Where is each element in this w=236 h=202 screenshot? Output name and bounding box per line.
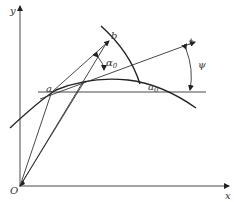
x-axis-label: x [225,190,231,201]
point-t-label: t [189,36,194,47]
alpha0-angle-arc [98,57,104,70]
tangent-line-a-t [40,42,195,99]
diagram-canvas: y x O a b t a0 α0 ψ [0,0,236,202]
psi-angle-arc [186,49,191,90]
alpha0-label: α0 [106,57,118,70]
y-axis-label: y [9,5,16,16]
point-a-label: a [46,83,52,94]
origin-label: O [10,185,18,196]
line-O-curve [20,82,84,186]
radius-arc [101,26,140,84]
point-b-label: b [111,30,117,41]
psi-label: ψ [198,59,206,70]
trajectory-curve [10,79,196,128]
